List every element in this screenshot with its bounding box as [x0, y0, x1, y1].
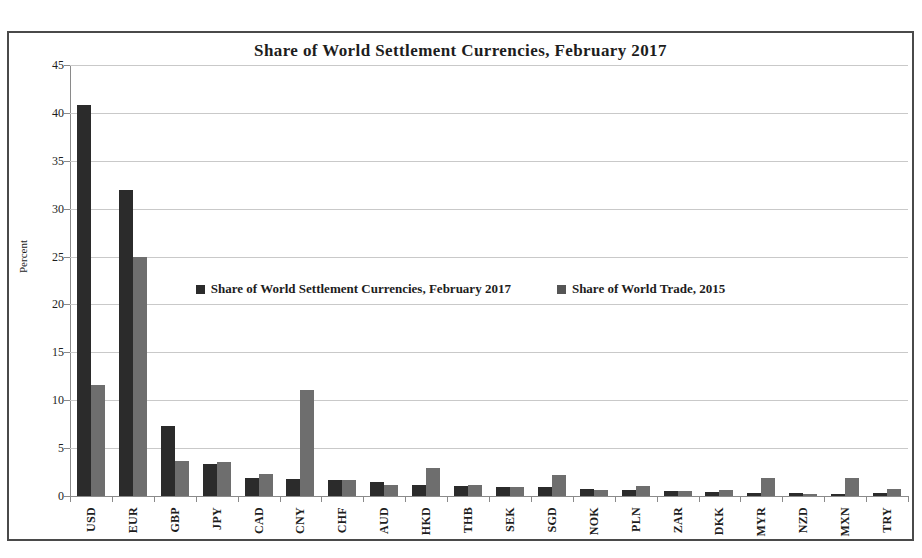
x-category-label-usd: USD	[84, 507, 99, 532]
x-tick-mark-sek	[489, 496, 490, 502]
y-tick-mark-20	[64, 304, 70, 305]
legend-label: Share of World Trade, 2015	[572, 281, 725, 297]
x-category-label-aud: AUD	[377, 507, 392, 534]
legend-swatch-icon	[196, 285, 205, 294]
x-category-label-chf: CHF	[335, 507, 350, 533]
bar-aud-series-1	[370, 482, 384, 496]
y-tick-label-0: 0	[24, 489, 64, 504]
y-tick-mark-15	[64, 352, 70, 353]
x-category-label-sgd: SGD	[545, 507, 560, 533]
bar-thb-series-2	[468, 485, 482, 496]
bar-sek-series-1	[496, 487, 510, 496]
bar-hkd-series-2	[426, 468, 440, 496]
chart-title: Share of World Settlement Currencies, Fe…	[9, 41, 912, 61]
y-tick-label-10: 10	[24, 393, 64, 408]
x-tick-mark-cad	[238, 496, 239, 502]
x-tick-mark-nzd	[782, 496, 783, 502]
y-tick-label-45: 45	[24, 58, 64, 73]
chart-legend: Share of World Settlement Currencies, Fe…	[9, 281, 912, 297]
bar-usd-series-1	[77, 105, 91, 496]
x-tick-mark-end	[908, 496, 909, 502]
legend-entry-settlement: Share of World Settlement Currencies, Fe…	[196, 281, 511, 297]
bar-chf-series-2	[342, 480, 356, 496]
x-tick-mark-mxn	[824, 496, 825, 502]
x-category-label-nzd: NZD	[796, 507, 811, 533]
bar-sgd-series-1	[538, 487, 552, 496]
x-tick-mark-cny	[280, 496, 281, 502]
legend-entry-trade: Share of World Trade, 2015	[557, 281, 725, 297]
x-tick-mark-gbp	[154, 496, 155, 502]
bar-pln-series-2	[636, 486, 650, 496]
x-tick-mark-myr	[740, 496, 741, 502]
bar-jpy-series-2	[217, 462, 231, 496]
bar-gbp-series-2	[175, 461, 189, 496]
y-tick-mark-5	[64, 448, 70, 449]
x-category-label-cny: CNY	[293, 507, 308, 534]
legend-swatch-icon	[557, 285, 566, 294]
x-category-label-mxn: MXN	[838, 507, 853, 537]
bar-jpy-series-1	[203, 464, 217, 496]
bar-nok-series-1	[580, 489, 594, 496]
x-category-label-cad: CAD	[252, 507, 267, 534]
bar-cny-series-1	[286, 479, 300, 496]
x-tick-mark-eur	[112, 496, 113, 502]
x-tick-mark-pln	[615, 496, 616, 502]
x-category-label-sek: SEK	[503, 507, 518, 532]
bar-chf-series-1	[328, 480, 342, 496]
y-tick-label-20: 20	[24, 297, 64, 312]
y-tick-mark-10	[64, 400, 70, 401]
x-tick-mark-chf	[321, 496, 322, 502]
x-tick-mark-nok	[573, 496, 574, 502]
x-category-label-nok: NOK	[587, 507, 602, 535]
chart-frame: Share of World Settlement Currencies, Fe…	[7, 31, 914, 541]
bar-aud-series-2	[384, 485, 398, 496]
bar-sek-series-2	[510, 487, 524, 496]
x-category-label-zar: ZAR	[671, 507, 686, 533]
bar-cad-series-2	[259, 474, 273, 496]
x-category-label-pln: PLN	[629, 507, 644, 532]
x-tick-mark-dkk	[699, 496, 700, 502]
x-category-label-dkk: DKK	[712, 507, 727, 535]
bar-cad-series-1	[245, 478, 259, 496]
bar-eur-series-1	[119, 190, 133, 496]
bar-gbp-series-1	[161, 426, 175, 496]
y-tick-mark-35	[64, 161, 70, 162]
y-tick-label-40: 40	[24, 105, 64, 120]
y-tick-mark-25	[64, 257, 70, 258]
x-tick-mark-aud	[363, 496, 364, 502]
legend-label: Share of World Settlement Currencies, Fe…	[211, 281, 511, 297]
x-tick-mark-try	[866, 496, 867, 502]
y-tick-label-15: 15	[24, 345, 64, 360]
y-tick-label-30: 30	[24, 201, 64, 216]
bar-try-series-2	[887, 489, 901, 496]
x-tick-mark-jpy	[196, 496, 197, 502]
y-tick-label-35: 35	[24, 153, 64, 168]
bar-sgd-series-2	[552, 475, 566, 496]
x-tick-mark-zar	[657, 496, 658, 502]
x-tick-mark-thb	[447, 496, 448, 502]
bar-cny-series-2	[300, 390, 314, 496]
x-category-label-thb: THB	[461, 507, 476, 533]
y-tick-mark-45	[64, 65, 70, 66]
bar-thb-series-1	[454, 486, 468, 496]
x-category-label-jpy: JPY	[210, 507, 225, 530]
x-tick-mark-usd	[70, 496, 71, 502]
x-tick-mark-hkd	[405, 496, 406, 502]
x-category-label-eur: EUR	[126, 507, 141, 533]
y-tick-label-5: 5	[24, 441, 64, 456]
y-tick-mark-30	[64, 209, 70, 210]
bar-myr-series-2	[761, 478, 775, 496]
bar-usd-series-2	[91, 385, 105, 496]
x-tick-mark-sgd	[531, 496, 532, 502]
x-category-label-try: TRY	[880, 507, 895, 533]
x-category-label-gbp: GBP	[168, 507, 183, 533]
x-category-label-hkd: HKD	[419, 507, 434, 535]
x-category-label-myr: MYR	[754, 507, 769, 537]
y-tick-mark-40	[64, 113, 70, 114]
bar-mxn-series-2	[845, 478, 859, 496]
bar-hkd-series-1	[412, 485, 426, 496]
y-tick-label-25: 25	[24, 249, 64, 264]
y-tick-mark-0	[64, 496, 70, 497]
